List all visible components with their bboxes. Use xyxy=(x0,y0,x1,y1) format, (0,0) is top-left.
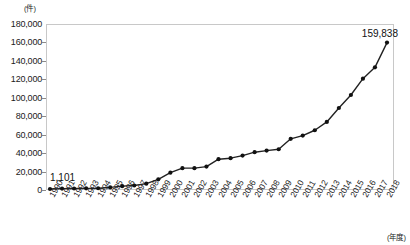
data-point-marker xyxy=(361,77,365,81)
data-point-marker xyxy=(277,147,281,151)
data-point-marker xyxy=(120,184,124,188)
data-point-marker xyxy=(240,154,244,158)
data-point-marker xyxy=(96,186,100,190)
data-point-marker xyxy=(385,40,389,44)
data-point-marker xyxy=(48,187,52,191)
data-point-marker xyxy=(337,106,341,110)
line-chart: (件) 020,00040,00060,00080,000100,000120,… xyxy=(0,0,410,245)
data-point-marker xyxy=(144,182,148,186)
data-point-marker xyxy=(325,120,329,124)
series-line xyxy=(50,43,387,189)
data-point-marker xyxy=(84,186,88,190)
data-point-marker xyxy=(156,177,160,181)
data-point-marker xyxy=(289,137,293,141)
data-point-marker xyxy=(108,185,112,189)
data-point-marker xyxy=(60,187,64,191)
data-point-marker xyxy=(228,156,232,160)
data-point-marker xyxy=(301,133,305,137)
data-point-marker xyxy=(313,128,317,132)
data-point-marker xyxy=(72,186,76,190)
data-point-marker xyxy=(204,164,208,168)
first-value-label: 1,101 xyxy=(50,172,75,183)
data-point-marker xyxy=(265,149,269,153)
data-point-marker xyxy=(349,93,353,97)
data-point-marker xyxy=(192,166,196,170)
data-point-marker xyxy=(132,183,136,187)
data-point-marker xyxy=(373,65,377,69)
data-point-marker xyxy=(180,166,184,170)
x-axis-unit-label: (年度) xyxy=(387,231,406,242)
last-value-label: 159,838 xyxy=(362,28,398,39)
data-point-marker xyxy=(253,150,257,154)
data-point-marker xyxy=(168,171,172,175)
data-series-line xyxy=(0,0,410,245)
data-point-marker xyxy=(216,157,220,161)
